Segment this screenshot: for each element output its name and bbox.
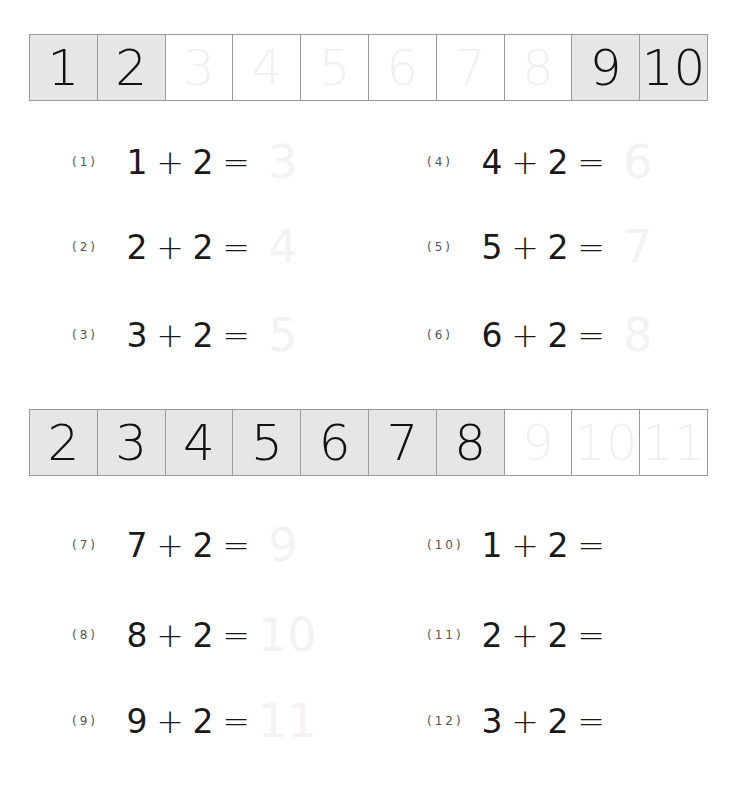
strip-cell: 3 (98, 410, 166, 475)
answer-trace[interactable]: 10 (258, 608, 308, 662)
addend-a: 1 (477, 526, 507, 565)
strip-cell-trace[interactable]: 11 (640, 410, 707, 475)
strip-cell: 6 (301, 410, 369, 475)
strip-cell: 7 (369, 410, 437, 475)
addend-b: 2 (543, 526, 573, 565)
addend-b: 2 (188, 143, 218, 182)
problem-number: (10) (427, 538, 477, 552)
equals-sign: = (573, 702, 609, 741)
equals-sign: = (573, 228, 609, 267)
problem-2: (2) 2+2= 4 (72, 222, 308, 272)
addend-b: 2 (543, 143, 573, 182)
problem-9: (9) 9+2= 11 (72, 696, 308, 746)
addend-b: 2 (188, 702, 218, 741)
strip-cell-trace[interactable]: 7 (437, 35, 505, 100)
addend-a: 2 (477, 616, 507, 655)
addend-a: 4 (477, 143, 507, 182)
plus-sign: + (507, 228, 543, 267)
addend-a: 9 (122, 702, 152, 741)
equals-sign: = (573, 616, 609, 655)
equals-sign: = (573, 316, 609, 355)
equals-sign: = (218, 526, 254, 565)
problem-number: (2) (72, 240, 122, 254)
problem-6: (6) 6+2= 8 (427, 310, 663, 360)
problem-4: (4) 4+2= 6 (427, 137, 663, 187)
addend-a: 2 (122, 228, 152, 267)
addend-a: 3 (477, 702, 507, 741)
plus-sign: + (152, 526, 188, 565)
addend-b: 2 (188, 616, 218, 655)
strip-cell: 5 (233, 410, 301, 475)
problem-number: (5) (427, 240, 477, 254)
number-strip-1: 1 2 3 4 5 6 7 8 9 10 (29, 34, 708, 101)
addend-b: 2 (543, 316, 573, 355)
problem-12: (12) 3+2= (427, 696, 663, 746)
strip-cell-trace[interactable]: 6 (369, 35, 437, 100)
plus-sign: + (152, 702, 188, 741)
addend-a: 8 (122, 616, 152, 655)
strip-cell: 2 (30, 410, 98, 475)
addend-a: 1 (122, 143, 152, 182)
answer-trace[interactable]: 9 (258, 518, 308, 572)
problem-number: (6) (427, 328, 477, 342)
strip-cell: 10 (640, 35, 707, 100)
addend-b: 2 (543, 616, 573, 655)
problem-number: (3) (72, 328, 122, 342)
problem-7: (7) 7+2= 9 (72, 520, 308, 570)
problem-3: (3) 3+2= 5 (72, 310, 308, 360)
problem-number: (8) (72, 628, 122, 642)
equals-sign: = (218, 228, 254, 267)
answer-trace[interactable]: 4 (258, 220, 308, 274)
strip-cell-trace[interactable]: 10 (572, 410, 640, 475)
answer-trace[interactable]: 6 (613, 135, 663, 189)
plus-sign: + (152, 228, 188, 267)
plus-sign: + (152, 616, 188, 655)
addend-b: 2 (188, 228, 218, 267)
plus-sign: + (152, 316, 188, 355)
strip-cell-trace[interactable]: 8 (505, 35, 573, 100)
strip-cell: 2 (98, 35, 166, 100)
plus-sign: + (507, 316, 543, 355)
equals-sign: = (573, 143, 609, 182)
problem-number: (4) (427, 155, 477, 169)
plus-sign: + (507, 616, 543, 655)
answer-trace[interactable]: 5 (258, 308, 308, 362)
number-strip-2: 2 3 4 5 6 7 8 9 10 11 (29, 409, 708, 476)
strip-cell-trace[interactable]: 3 (166, 35, 234, 100)
problem-number: (1) (72, 155, 122, 169)
problem-11: (11) 2+2= (427, 610, 663, 660)
addend-a: 3 (122, 316, 152, 355)
problem-8: (8) 8+2= 10 (72, 610, 308, 660)
plus-sign: + (507, 702, 543, 741)
equals-sign: = (218, 316, 254, 355)
strip-cell-trace[interactable]: 5 (301, 35, 369, 100)
equals-sign: = (218, 702, 254, 741)
problem-10: (10) 1+2= (427, 520, 663, 570)
problem-number: (12) (427, 714, 477, 728)
strip-cell: 1 (30, 35, 98, 100)
answer-trace[interactable]: 3 (258, 135, 308, 189)
strip-cell-trace[interactable]: 9 (505, 410, 573, 475)
equals-sign: = (218, 616, 254, 655)
strip-cell: 9 (572, 35, 640, 100)
addend-a: 5 (477, 228, 507, 267)
problem-1: (1) 1+2= 3 (72, 137, 308, 187)
problem-number: (11) (427, 628, 477, 642)
problem-number: (7) (72, 538, 122, 552)
addend-b: 2 (188, 316, 218, 355)
strip-cell: 4 (166, 410, 234, 475)
plus-sign: + (507, 526, 543, 565)
equals-sign: = (218, 143, 254, 182)
addend-a: 6 (477, 316, 507, 355)
answer-trace[interactable]: 8 (613, 308, 663, 362)
addend-b: 2 (543, 702, 573, 741)
answer-trace[interactable]: 11 (258, 694, 308, 748)
addend-b: 2 (543, 228, 573, 267)
strip-cell: 8 (437, 410, 505, 475)
addend-a: 7 (122, 526, 152, 565)
plus-sign: + (507, 143, 543, 182)
strip-cell-trace[interactable]: 4 (233, 35, 301, 100)
answer-trace[interactable]: 7 (613, 220, 663, 274)
equals-sign: = (573, 526, 609, 565)
addend-b: 2 (188, 526, 218, 565)
